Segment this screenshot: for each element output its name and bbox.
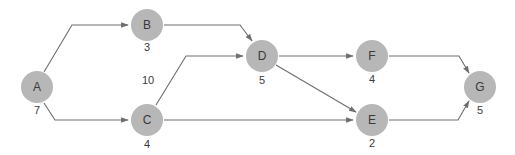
- node-f-duration: 4: [369, 73, 375, 85]
- edge-a-b: [44, 25, 128, 72]
- node-e-duration: 2: [369, 137, 375, 149]
- node-f: F 4: [356, 40, 388, 85]
- edge-b-d: [164, 25, 252, 41]
- node-b-label: B: [143, 18, 151, 32]
- edge-f-g: [389, 56, 469, 73]
- network-diagram: A 7 B 3 C 4 D 5 F 4 E 2 G 5 10: [0, 0, 515, 155]
- node-a-duration: 7: [34, 104, 40, 116]
- node-e-label: E: [368, 113, 376, 127]
- node-b: B 3: [131, 9, 163, 53]
- edge-c-d: [156, 56, 243, 105]
- node-g-duration: 5: [477, 104, 483, 116]
- node-a-label: A: [33, 80, 41, 94]
- node-d-label: D: [258, 49, 267, 63]
- edge-d-e: [276, 65, 356, 112]
- node-g: G 5: [464, 71, 496, 116]
- edge-e-g: [389, 101, 469, 120]
- node-b-duration: 3: [144, 41, 150, 53]
- node-c-label: C: [143, 113, 152, 127]
- edge-a-c: [44, 103, 128, 120]
- node-e: E 2: [356, 104, 388, 149]
- floating-duration-label: 10: [142, 74, 154, 86]
- node-g-label: G: [475, 80, 484, 94]
- node-f-label: F: [368, 49, 375, 63]
- node-c: C 4: [131, 104, 163, 150]
- node-d: D 5: [246, 40, 278, 86]
- node-d-duration: 5: [259, 74, 265, 86]
- node-c-duration: 4: [144, 138, 150, 150]
